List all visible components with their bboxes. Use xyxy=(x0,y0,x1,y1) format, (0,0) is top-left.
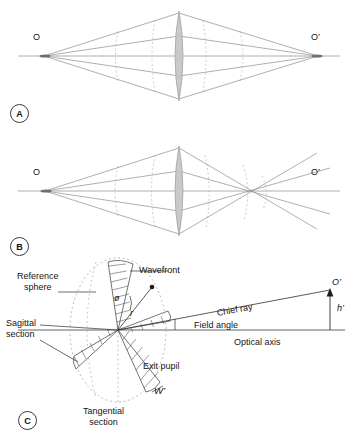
polar-radius-label: r xyxy=(130,308,133,319)
panel-a-group xyxy=(18,11,340,101)
panel-a-object-label: O xyxy=(33,32,40,43)
exit-pupil-label: Exit pupil xyxy=(143,361,180,372)
panel-c-petal-upper xyxy=(108,260,133,330)
panel-c-group xyxy=(18,258,345,402)
panel-c-image-height-label: h’ xyxy=(337,303,344,314)
panel-b-group xyxy=(18,146,340,236)
panel-b-object-label: O xyxy=(33,167,40,178)
polar-angle-label: ø xyxy=(114,293,120,304)
panel-c-petal-left xyxy=(73,329,118,369)
tangential-section-label: Tangential section xyxy=(83,406,124,428)
panel-a-image-label: O’ xyxy=(311,32,320,43)
panel-a-image-point xyxy=(312,55,323,58)
panel-a-object-point xyxy=(40,55,51,58)
panel-b-object-point xyxy=(41,190,52,193)
panel-c-image-height-arrowhead xyxy=(327,288,334,297)
panel-tag-a: A xyxy=(10,104,29,123)
panel-b-wavefronts-right xyxy=(205,155,266,228)
wave-aberration-label: W’ xyxy=(154,385,165,396)
panel-c-image-point-label: O’ xyxy=(332,277,341,288)
panel-b-lens xyxy=(175,146,183,236)
field-angle-label: Field angle xyxy=(194,320,238,331)
panel-c-pupil-point xyxy=(150,285,155,290)
panel-tag-b: B xyxy=(10,237,29,256)
panel-c-sagittal-leader-top xyxy=(40,325,118,330)
panel-tag-c: C xyxy=(18,411,37,430)
sagittal-section-label: Sagittal section xyxy=(6,318,36,340)
wavefront-label: Wavefront xyxy=(139,265,180,276)
panel-c-sagittal-leader-bottom xyxy=(40,340,78,362)
panel-b-image-label: O’ xyxy=(311,167,320,178)
optical-aberration-figure xyxy=(0,0,355,438)
panel-a-lens xyxy=(175,11,183,101)
optical-axis-label: Optical axis xyxy=(234,337,281,348)
reference-sphere-label: Reference sphere xyxy=(17,271,59,293)
